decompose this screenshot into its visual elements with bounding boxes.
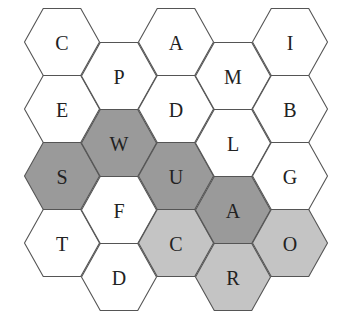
hex-letter: R (226, 267, 240, 289)
hex-letter: F (113, 200, 124, 222)
hex-letter: U (169, 166, 184, 188)
hex-letter: A (169, 32, 184, 54)
hex-letter: D (112, 267, 126, 289)
hex-letter: T (56, 233, 68, 255)
hex-letter: D (169, 99, 183, 121)
hex-letter: O (283, 233, 297, 255)
hex-letter: E (56, 99, 68, 121)
hex-letter: B (283, 99, 296, 121)
hex-letter: P (113, 66, 124, 88)
hex-letter: C (55, 32, 68, 54)
hex-letter: M (224, 66, 242, 88)
hex-letter: W (110, 133, 129, 155)
hex-letter: C (169, 233, 182, 255)
hex-letter: L (227, 133, 239, 155)
hex-letter: A (226, 200, 241, 222)
hex-letter-grid: CESTPWFDADUCMLARIBGO (0, 0, 350, 315)
hex-letter: I (287, 32, 294, 54)
hex-letter: G (283, 166, 297, 188)
hex-letter: S (56, 166, 67, 188)
